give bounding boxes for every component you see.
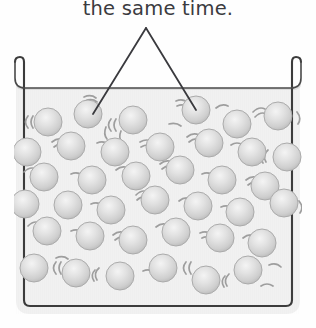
diagram-canvas [0,0,316,328]
particle-diagram-figure: the same time. [0,0,316,328]
caption-text: the same time. [0,0,316,20]
